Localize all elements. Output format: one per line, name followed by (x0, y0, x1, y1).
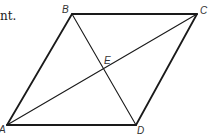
label-b: B (62, 4, 69, 15)
label-e: E (104, 55, 111, 66)
label-c: C (200, 5, 208, 16)
label-a: A (0, 124, 6, 134)
label-d: D (137, 125, 144, 134)
side-cd (136, 14, 197, 125)
diagonal-ac (7, 14, 197, 125)
side-ab (7, 14, 72, 125)
parallelogram-diagram: A B C D E (0, 0, 213, 134)
diagonal-bd (72, 14, 136, 125)
